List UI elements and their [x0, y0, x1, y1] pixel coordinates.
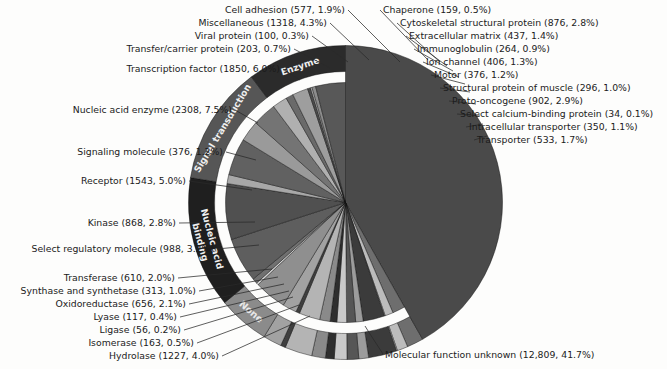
slice-label: Molecular function unknown (12,809, 41.7…: [385, 349, 594, 360]
slice-label: Intracellular transporter (350, 1.1%): [469, 121, 638, 132]
slice-label: Immunoglobulin (264, 0.9%): [417, 43, 550, 54]
slice-label: Transcription factor (1850, 6.0%): [126, 63, 280, 74]
slice-label: Select regulatory molecule (988, 3.2%): [32, 243, 215, 254]
slice-label: Nucleic acid enzyme (2308, 7.5%): [73, 104, 232, 115]
slice-label: Oxidoreductase (656, 2.1%): [55, 298, 186, 309]
slice-label: Motor (376, 1.2%): [434, 69, 518, 80]
molecular-function-pie-chart: NoneNucleic acidbindingSignal transducti…: [0, 0, 667, 369]
slice-label: Lyase (117, 0.4%): [93, 311, 177, 322]
slice-label: Proto-oncogene (902, 2.9%): [452, 95, 583, 106]
pie-chart-figure: NoneNucleic acidbindingSignal transducti…: [0, 0, 667, 369]
slice-label: Kinase (868, 2.8%): [88, 217, 176, 228]
slice-label: Signaling molecule (376, 1.2%): [77, 146, 223, 157]
slice-label: Isomerase (163, 0.5%): [88, 337, 194, 348]
slice-label: Transferase (610, 2.0%): [63, 272, 175, 283]
slice-label: Cytoskeletal structural protein (876, 2.…: [400, 17, 599, 28]
slice-label: Ligase (56, 0.2%): [100, 324, 182, 335]
slice-label: Hydrolase (1227, 4.0%): [109, 350, 219, 361]
slice-label: Synthase and synthetase (313, 1.0%): [21, 285, 196, 296]
outer-ring-segment[interactable]: [334, 333, 347, 359]
slice-label: Select calcium-binding protein (34, 0.1%…: [460, 108, 653, 119]
slice-label: Viral protein (100, 0.3%): [195, 30, 309, 41]
slice-label: Extracellular matrix (437, 1.4%): [409, 30, 558, 41]
slice-label: Cell adhesion (577, 1.9%): [225, 4, 345, 15]
slice-label: Transporter (533, 1.7%): [476, 134, 588, 145]
slice-label: Structural protein of muscle (296, 1.0%): [443, 82, 631, 93]
slice-label: Miscellaneous (1318, 4.3%): [198, 17, 327, 28]
slice-label: Transfer/carrier protein (203, 0.7%): [126, 43, 291, 54]
slice-label: Chaperone (159, 0.5%): [383, 4, 491, 15]
slice-label: Receptor (1543, 5.0%): [81, 175, 186, 186]
slice-label: Ion channel (406, 1.3%): [426, 56, 538, 67]
outer-ring-segment[interactable]: [347, 333, 359, 359]
